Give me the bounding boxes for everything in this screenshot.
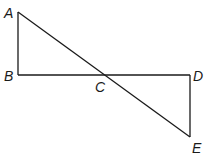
- label-a: A: [3, 5, 13, 21]
- label-b: B: [4, 68, 13, 84]
- label-e: E: [192, 140, 202, 156]
- label-c: C: [95, 79, 106, 95]
- label-d: D: [193, 68, 203, 84]
- geometry-diagram: A B C D E: [0, 0, 205, 157]
